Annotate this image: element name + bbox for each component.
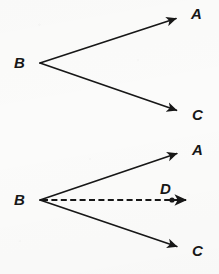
label-lower-b: B bbox=[14, 192, 25, 207]
upper-angle-group bbox=[40, 19, 177, 111]
ray-b-to-c-lower bbox=[40, 200, 177, 247]
lower-angle-group bbox=[40, 154, 186, 247]
point-d-dot bbox=[169, 197, 174, 202]
label-upper-a: A bbox=[191, 6, 202, 21]
ray-b-to-c-upper bbox=[40, 63, 177, 110]
label-lower-d: D bbox=[160, 181, 171, 196]
label-upper-b: B bbox=[14, 55, 25, 70]
label-lower-a: A bbox=[192, 142, 203, 157]
label-lower-c: C bbox=[192, 243, 203, 258]
label-upper-c: C bbox=[192, 107, 203, 122]
ray-b-to-a-lower bbox=[40, 154, 177, 201]
geometry-figure: B A C B A D C bbox=[0, 0, 219, 274]
ray-diagram-canvas bbox=[0, 0, 219, 274]
ray-b-to-a-upper bbox=[40, 19, 176, 64]
